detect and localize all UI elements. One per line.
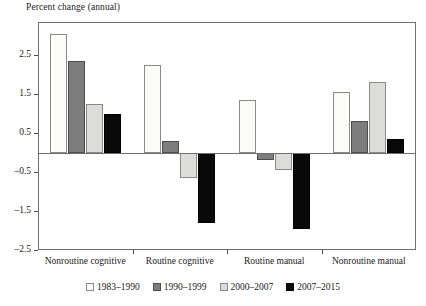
legend-swatch-icon (220, 283, 228, 291)
bar (239, 100, 256, 153)
bar (162, 141, 179, 153)
bar (351, 121, 368, 152)
x-axis-category-label: Routine cognitive (133, 256, 228, 266)
y-axis-tick-mark (34, 172, 38, 173)
legend-label: 1990–1999 (164, 282, 207, 292)
legend-swatch-icon (153, 283, 161, 291)
bar (198, 153, 215, 223)
legend-label: 2007–2015 (297, 282, 340, 292)
bar (144, 65, 161, 153)
y-axis-tick-label: –0.5 (14, 165, 31, 178)
y-axis-tick-mark (34, 133, 38, 134)
y-axis-tick-label: 1.5 (19, 87, 31, 100)
bar (104, 114, 121, 153)
bar (180, 153, 197, 178)
legend-label: 1983–1990 (97, 282, 140, 292)
y-axis-tick-label: –2.5 (14, 243, 31, 256)
y-axis-tick-mark (34, 94, 38, 95)
y-axis-tick: 0.5 (0, 133, 38, 134)
y-axis-tick-mark (34, 250, 38, 251)
bar (369, 82, 386, 152)
y-axis-tick: –1.5 (0, 211, 38, 212)
legend-swatch-icon (86, 283, 94, 291)
y-axis-tick-label: 0.5 (19, 126, 31, 139)
bar (387, 139, 404, 153)
y-axis-tick: 2.5 (0, 55, 38, 56)
bar (293, 153, 310, 229)
legend-item: 2000–2007 (220, 282, 274, 292)
legend-item: 1983–1990 (86, 282, 140, 292)
bar (257, 153, 274, 161)
x-axis-tick-mark (322, 250, 323, 254)
y-axis-tick: –0.5 (0, 172, 38, 173)
chart-legend: 1983–19901990–19992000–20072007–2015 (0, 282, 426, 292)
y-axis-tick-label: –1.5 (14, 204, 31, 217)
bar (68, 61, 85, 153)
bar (275, 153, 292, 171)
y-axis-tick: –2.5 (0, 250, 38, 251)
y-axis-tick-mark (34, 55, 38, 56)
bar (86, 104, 103, 153)
y-axis-tick-label: 2.5 (19, 48, 31, 61)
zero-baseline-line (38, 153, 416, 154)
legend-item: 2007–2015 (286, 282, 340, 292)
x-axis-category-label: Nonroutine manual (322, 256, 417, 266)
x-axis-tick-mark (133, 250, 134, 254)
x-axis-tick-mark (227, 250, 228, 254)
chart-figure: Percent change (annual) 2.51.50.5–0.5–1.… (0, 0, 426, 306)
legend-item: 1990–1999 (153, 282, 207, 292)
y-axis-title: Percent change (annual) (26, 2, 120, 12)
legend-swatch-icon (286, 283, 294, 291)
y-axis-tick-mark (34, 211, 38, 212)
legend-label: 2000–2007 (231, 282, 274, 292)
y-axis-tick: 1.5 (0, 94, 38, 95)
bar (50, 34, 67, 153)
x-axis-category-label: Nonroutine cognitive (38, 256, 133, 266)
bar (333, 92, 350, 152)
x-axis-category-label: Routine manual (227, 256, 322, 266)
